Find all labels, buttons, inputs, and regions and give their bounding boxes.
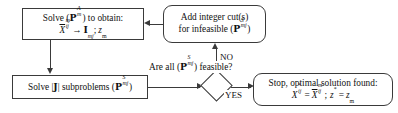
node-add-cuts-line1: Add integer cut(s) (181, 12, 249, 23)
edge-subproblems-to-decision-line (148, 87, 200, 88)
node-stop-line2: Xij*=Xijm;z*=zm (292, 89, 354, 101)
edge-addcuts-to-master-arrowhead (144, 20, 150, 26)
node-solve-master-line2: Xijm→Imj;zm (59, 24, 106, 36)
node-add-integer-cuts[interactable]: Add integer cut(s) for infeasible (PmjS) (163, 5, 266, 43)
edge-master-to-subproblems-arrowhead (47, 68, 53, 74)
node-stop-line1: Stop, optimal solution found: (269, 78, 378, 89)
node-solve-master-line1: Solve (PmA) to obtain: (43, 12, 123, 24)
node-solve-subproblems[interactable]: Solve |J| subproblems (PmjS) (12, 75, 148, 99)
decision-question-label: Are all (PmjS) feasible? (148, 61, 233, 73)
decision-question-line1: Are all (PmjS) (149, 62, 197, 72)
edge-addcuts-to-master-line (150, 24, 164, 25)
edge-label-yes: YES (224, 90, 243, 100)
decision-question-line2: feasible? (199, 62, 232, 72)
node-solve-sub-line1: Solve |J| subproblems (PmjS) (28, 81, 132, 93)
flowchart-canvas: NO YES Are all (PmjS) feasible? Solve (P… (0, 0, 398, 113)
node-add-cuts-line2: for infeasible (PmjS) (179, 23, 251, 35)
node-solve-master-problem[interactable]: Solve (PmA) to obtain: Xijm→Imj;zm (22, 8, 144, 40)
node-stop-optimal-solution[interactable]: Stop, optimal solution found: Xij*=Xijm;… (253, 73, 393, 106)
edge-decision-to-addcuts-arrowhead (212, 43, 218, 49)
edge-master-to-subproblems-line (50, 40, 51, 69)
